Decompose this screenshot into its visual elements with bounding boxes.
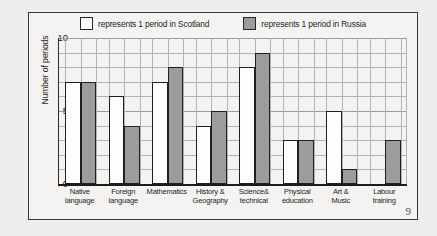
bar-scotland-5 xyxy=(283,140,298,184)
bar-russia-7 xyxy=(385,140,400,184)
gray-square-icon xyxy=(243,17,256,30)
x-label-4: Science&technical xyxy=(229,187,279,205)
bar-russia-1 xyxy=(124,126,139,184)
x-label-6: Art &Music xyxy=(316,187,366,205)
bar-scotland-4 xyxy=(239,67,254,184)
legend-item-russia: represents 1 period in Russia xyxy=(243,17,366,30)
bar-scotland-6 xyxy=(326,111,341,184)
chart-figure: represents 1 period in Scotland represen… xyxy=(28,12,418,220)
bar-scotland-1 xyxy=(109,96,124,184)
bar-russia-0 xyxy=(81,82,96,184)
bar-russia-6 xyxy=(342,169,357,184)
x-axis-category-labels: NativelanguageForeignlanguageMathematics… xyxy=(58,187,406,213)
plot-area xyxy=(58,38,407,186)
bar-russia-5 xyxy=(298,140,313,184)
x-label-3: History &Geography xyxy=(186,187,236,205)
bar-russia-3 xyxy=(211,111,226,184)
legend-label-russia: represents 1 period in Russia xyxy=(261,19,366,29)
x-label-1: Foreignlanguage xyxy=(99,187,149,205)
x-label-5: Physicaleducation xyxy=(273,187,323,205)
legend-label-scotland: represents 1 period in Scotland xyxy=(98,19,209,29)
page-number: 9 xyxy=(406,205,412,217)
bar-series-layer xyxy=(59,38,407,184)
x-label-2: Mathematics xyxy=(142,187,192,196)
bar-scotland-0 xyxy=(65,82,80,184)
legend-item-scotland: represents 1 period in Scotland xyxy=(80,17,209,30)
bar-russia-2 xyxy=(168,67,183,184)
x-label-7: Labourtraining xyxy=(360,187,410,205)
white-square-icon xyxy=(80,17,93,30)
bar-scotland-3 xyxy=(196,126,211,184)
bar-scotland-2 xyxy=(152,82,167,184)
x-label-0: Nativelanguage xyxy=(55,187,105,205)
bar-russia-4 xyxy=(255,53,270,184)
chart-legend: represents 1 period in Scotland represen… xyxy=(29,17,417,30)
